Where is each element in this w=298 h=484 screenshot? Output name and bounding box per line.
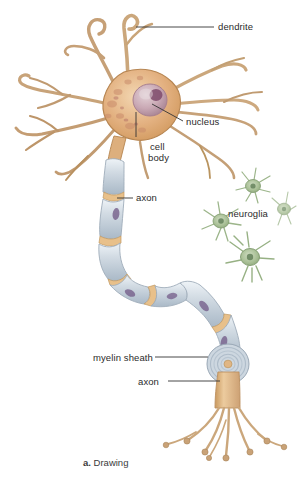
synaptic-knobs [163,438,287,461]
neuroglia-group [202,168,296,282]
figure-panel: dendrite nucleus cell body axon neurogli… [0,0,298,484]
nucleus-shape [133,84,167,116]
axon-myelinated [99,136,249,408]
label-cell-body-line2: body [148,152,169,163]
cell-body [103,69,181,140]
label-cell-body-line1: cell [150,141,165,152]
figure-caption: a. Drawing [83,457,128,468]
label-dendrite: dendrite [218,21,253,32]
label-nucleus: nucleus [186,116,219,127]
axon-core [215,372,240,408]
axon-terminal-group [168,408,282,456]
label-axon-upper: axon [136,192,157,203]
caption-marker: a. [83,457,91,468]
label-neuroglia: neuroglia [228,208,268,219]
caption-text: Drawing [94,457,129,468]
neuron-diagram [0,0,298,484]
label-myelin-sheath: myelin sheath [93,352,153,363]
label-axon-lower: axon [138,376,159,387]
